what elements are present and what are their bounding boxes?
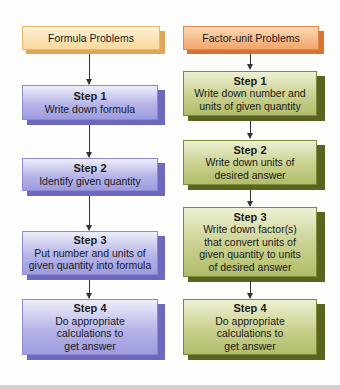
left-step-1-text: Write down formula	[45, 103, 135, 116]
right-step-4: Step 4 Do appropriate calculations to ge…	[183, 299, 317, 355]
right-step-4-text-1: Do appropriate	[215, 315, 284, 328]
right-step-2: Step 2 Write down units of desired answe…	[183, 140, 317, 185]
left-arrow-2	[89, 196, 90, 230]
right-step-1-text-1: Write down number and	[194, 87, 305, 100]
right-step-3: Step 3 Write down factor(s) that convert…	[183, 207, 317, 277]
left-step-2: Step 2 Identify given quantity	[22, 158, 158, 191]
right-header-box: Factor-unit Problems	[183, 26, 319, 50]
left-step-2-text: Identify given quantity	[39, 175, 141, 188]
left-step-3: Step 3 Put number and units of given qua…	[22, 231, 158, 275]
left-arrow-0	[89, 54, 90, 84]
right-step-4-text-3: get answer	[224, 340, 275, 353]
right-step-2-title: Step 2	[233, 144, 266, 157]
footer-divider	[0, 385, 340, 389]
right-step-3-title: Step 3	[233, 211, 266, 224]
right-step-4-text-2: calculations to	[217, 327, 284, 340]
left-step-4: Step 4 Do appropriate calculations to ge…	[22, 299, 158, 355]
right-step-2-text-2: desired answer	[214, 169, 285, 182]
left-arrow-1	[89, 125, 90, 157]
right-arrow-0	[250, 54, 251, 69]
right-header-label: Factor-unit Problems	[202, 32, 299, 45]
right-step-4-title: Step 4	[233, 302, 266, 315]
right-step-1-title: Step 1	[233, 75, 266, 88]
right-arrow-2	[250, 190, 251, 206]
left-header-label: Formula Problems	[48, 32, 134, 45]
left-arrow-3	[89, 280, 90, 298]
left-step-4-text-3: get answer	[64, 340, 115, 353]
left-step-4-text-1: Do appropriate	[55, 315, 124, 328]
left-step-2-title: Step 2	[73, 162, 106, 175]
right-step-1: Step 1 Write down number and units of gi…	[183, 71, 317, 116]
right-step-3-text-1: Write down factor(s)	[203, 223, 297, 236]
right-step-3-text-4: of desired answer	[209, 261, 292, 274]
left-step-1-title: Step 1	[73, 90, 106, 103]
left-step-4-text-2: calculations to	[57, 327, 124, 340]
left-step-3-text-2: given quantity into formula	[29, 259, 152, 272]
left-header-box: Formula Problems	[22, 26, 160, 50]
left-step-1: Step 1 Write down formula	[22, 85, 158, 120]
right-arrow-1	[250, 121, 251, 138]
right-arrow-3	[250, 282, 251, 298]
left-step-4-title: Step 4	[73, 302, 106, 315]
left-step-3-text-1: Put number and units of	[34, 247, 146, 260]
right-step-3-text-2: that convert units of	[204, 236, 296, 249]
right-step-1-text-2: units of given quantity	[199, 100, 301, 113]
right-step-3-text-3: given quantity to units	[199, 248, 301, 261]
right-step-2-text-1: Write down units of	[205, 156, 294, 169]
left-step-3-title: Step 3	[73, 234, 106, 247]
